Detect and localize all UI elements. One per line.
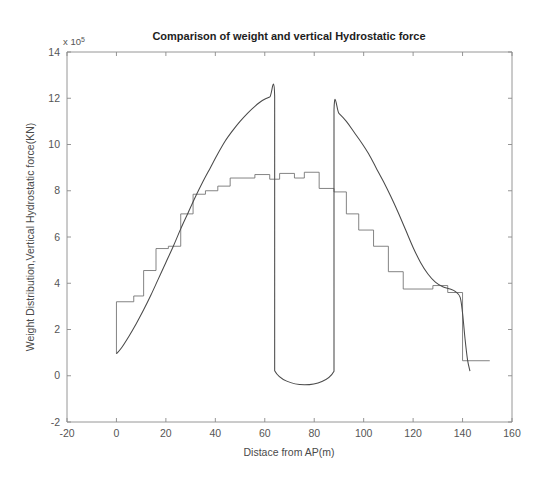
- x-tick-label: 60: [259, 427, 271, 439]
- y-tick-label: 8: [54, 184, 60, 196]
- y-exponent-power: 5: [81, 36, 85, 43]
- x-tick-label: 140: [454, 427, 472, 439]
- x-tick-label: 40: [209, 427, 221, 439]
- figure-container: -20020406080100120140160 -202468101214 C…: [0, 0, 547, 478]
- x-tick-label: 20: [160, 427, 172, 439]
- y-tick-label: 10: [48, 138, 60, 150]
- x-tick-label: 80: [308, 427, 320, 439]
- figure-background: [0, 0, 547, 478]
- y-tick-label: 12: [48, 92, 60, 104]
- y-tick-label: -2: [51, 416, 60, 428]
- y-tick-label: 2: [54, 323, 60, 335]
- chart-title: Comparison of weight and vertical Hydros…: [152, 30, 425, 42]
- x-tick-label: 120: [404, 427, 422, 439]
- x-tick-label: 100: [355, 427, 373, 439]
- x-tick-label: -20: [59, 427, 74, 439]
- y-tick-label: 6: [54, 231, 60, 243]
- y-tick-label: 0: [54, 369, 60, 381]
- y-tick-label: 14: [48, 46, 60, 58]
- x-tick-label: 160: [503, 427, 521, 439]
- y-exponent-base: x 10: [63, 36, 81, 47]
- x-axis-label: Distace from AP(m): [243, 446, 334, 458]
- y-axis-label: Weight Distribution,Vertical Hydrostatic…: [24, 123, 36, 352]
- y-tick-label: 4: [54, 277, 60, 289]
- x-tick-label: 0: [114, 427, 120, 439]
- chart-canvas: -20020406080100120140160 -202468101214 C…: [0, 0, 547, 478]
